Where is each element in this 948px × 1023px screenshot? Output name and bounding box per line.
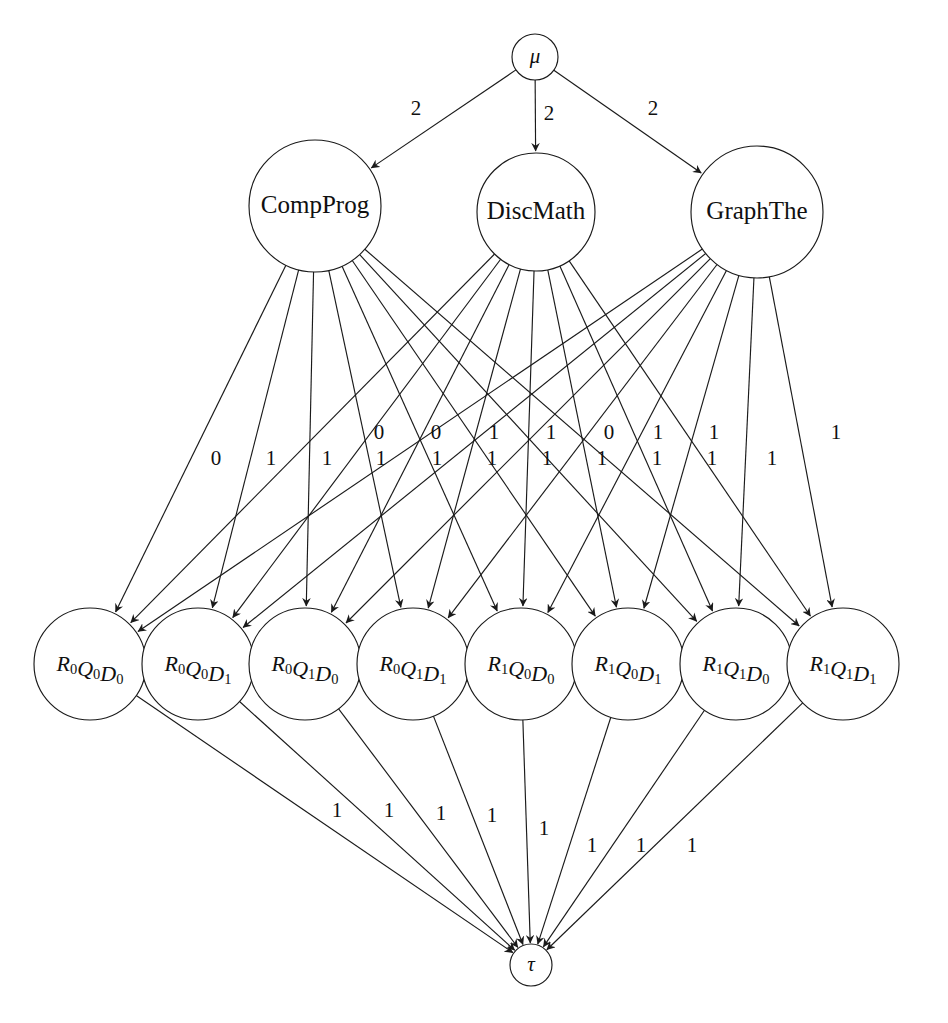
edge-compprog-to-r1q0d1: [352, 260, 595, 616]
edge-r1q1d1-to-tau: [547, 703, 803, 950]
edge-r0q1d1-to-tau: [433, 716, 523, 944]
edge-weight-middle-upper: 1: [653, 420, 664, 444]
edge-compprog-to-r0q0d1: [212, 270, 298, 608]
edge-discmath-to-r1q0d0: [523, 271, 534, 606]
course-node-label: DiscMath: [487, 197, 586, 224]
edge-weight-sink: 1: [384, 798, 395, 822]
node-mu-label: μ: [529, 44, 541, 68]
edge-weight-middle-upper: 0: [374, 420, 385, 444]
flow-network-diagram: μCompProgDiscMathGraphTheR0Q0D0R0Q0D1R0Q…: [0, 0, 948, 1023]
edge-r1q1d0-to-tau: [543, 710, 704, 947]
edge-discmath-to-r0q1d0: [331, 265, 509, 613]
edge-weight-middle-upper: 1: [831, 420, 842, 444]
graph-canvas: μCompProgDiscMathGraphTheR0Q0D0R0Q0D1R0Q…: [0, 0, 948, 1023]
edge-weight-sink: 1: [687, 833, 698, 857]
edge-compprog-to-r0q0d0: [116, 265, 286, 612]
edge-weight-sink: 1: [436, 801, 447, 825]
edge-weight-middle-lower: 0: [211, 446, 222, 470]
edge-weight-source: 2: [544, 101, 555, 125]
edge-r1q0d0-to-tau: [523, 720, 530, 943]
edge-weight-middle-upper: 0: [431, 420, 442, 444]
edge-weight-source: 2: [411, 96, 422, 120]
edge-compprog-to-r0q1d1: [329, 271, 401, 608]
edge-weight-middle-lower: 1: [597, 446, 608, 470]
edge-graphthe-to-r1q1d0: [739, 278, 754, 606]
edge-weight-middle-lower: 1: [322, 446, 333, 470]
node-group: μCompProgDiscMathGraphTheR0Q0D0R0Q0D1R0Q…: [34, 34, 899, 986]
edge-mu-to-graphthe: [554, 70, 701, 173]
edge-weight-sink: 1: [539, 816, 550, 840]
edge-weight-sink: 1: [487, 803, 498, 827]
sink-edge-group: [136, 696, 802, 953]
edge-mu-to-compprog: [371, 70, 516, 168]
edge-weight-middle-upper: 1: [489, 420, 500, 444]
edge-discmath-to-r0q0d1: [233, 259, 501, 617]
course-node-label: GraphThe: [706, 197, 807, 224]
edge-weight-sink: 1: [636, 833, 647, 857]
edge-discmath-to-r0q1d1: [428, 269, 520, 608]
edge-weight-middle-upper: 1: [546, 420, 557, 444]
edge-weight-middle-lower: 1: [432, 446, 443, 470]
edge-r0q0d1-to-tau: [240, 702, 515, 951]
edge-r0q0d0-to-tau: [136, 696, 513, 953]
edge-graphthe-to-r1q0d0: [548, 271, 727, 613]
edge-weight-middle-upper: 1: [709, 420, 720, 444]
edge-weight-middle-lower: 1: [767, 446, 778, 470]
middle-edge-group: [116, 249, 833, 631]
edge-weight-middle-upper: 0: [604, 420, 615, 444]
edge-weight-middle-lower: 1: [376, 446, 387, 470]
edge-r0q1d0-to-tau: [339, 709, 518, 948]
edge-weight-middle-lower: 1: [542, 446, 553, 470]
edge-weight-sink: 1: [587, 833, 598, 857]
edge-weight-middle-lower: 1: [707, 446, 718, 470]
edge-graphthe-to-r0q0d0: [138, 249, 702, 631]
edge-weight-middle-lower: 1: [487, 446, 498, 470]
edge-weight-middle-lower: 1: [652, 446, 663, 470]
edge-weight-sink: 1: [332, 798, 343, 822]
course-node-label: CompProg: [261, 191, 370, 218]
edge-graphthe-to-r1q1d1: [769, 277, 832, 607]
edge-weight-middle-lower: 1: [266, 446, 277, 470]
edge-weight-source: 2: [648, 96, 659, 120]
